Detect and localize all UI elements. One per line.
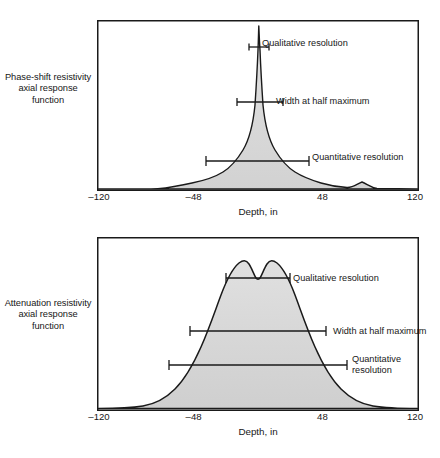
x-tick-label-120-bottom: 120	[407, 411, 423, 422]
x-axis-tick-labels-top: –120 –48 48 120	[97, 191, 419, 205]
x-tick-label-minus-48-bottom: –48	[186, 411, 202, 422]
axis-side-label-phase-shift: Phase-shift resistivity axial response f…	[4, 72, 92, 106]
x-tick-label-120-top: 120	[407, 191, 423, 202]
annotation-label-width-at-half-maximum-top: Width at half maximum	[276, 96, 369, 107]
annotation-label-qualitative-resolution-bottom: Qualitative resolution	[293, 273, 379, 284]
annotation-label-quantitative-resolution-top: Quantitative resolution	[312, 152, 403, 163]
axis-side-label-attenuation: Attenuation resistivity axial response f…	[4, 298, 92, 332]
plot-area-attenuation	[97, 237, 419, 411]
annotation-label-qualitative-resolution-top: Qualitative resolution	[262, 38, 348, 49]
phase-shift-response-curve-svg	[97, 20, 419, 191]
x-tick-label-minus-120-top: –120	[88, 191, 109, 202]
figure-container: Phase-shift resistivity axial response f…	[0, 0, 440, 458]
x-axis-tick-labels-bottom: –120 –48 48 120	[97, 411, 419, 425]
chart-panel-attenuation: Attenuation resistivity axial response f…	[0, 228, 440, 458]
annotation-label-quantitative-resolution-bottom: Quantitative resolution	[352, 354, 401, 376]
x-tick-label-48-bottom: 48	[317, 411, 328, 422]
x-axis-title-bottom: Depth, in	[97, 426, 419, 437]
x-tick-label-48-top: 48	[317, 191, 328, 202]
plot-area-phase-shift	[97, 20, 419, 191]
chart-panel-phase-shift: Phase-shift resistivity axial response f…	[0, 0, 440, 228]
attenuation-response-curve-svg	[97, 237, 419, 411]
x-tick-label-minus-120-bottom: –120	[88, 411, 109, 422]
x-axis-title-top: Depth, in	[97, 206, 419, 217]
annotation-label-width-at-half-maximum-bottom: Width at half maximum	[333, 326, 426, 337]
x-tick-label-minus-48-top: –48	[186, 191, 202, 202]
